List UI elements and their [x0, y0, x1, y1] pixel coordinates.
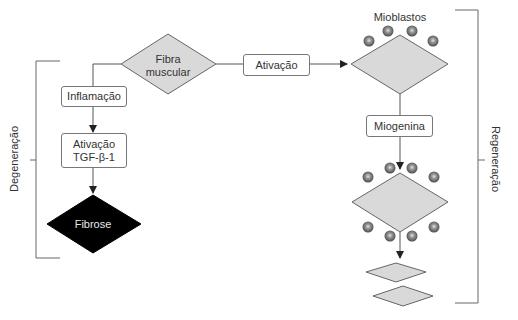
mioblastos-label: Mioblastos — [365, 11, 435, 24]
connector-fibra-inflamacao — [93, 64, 121, 86]
inflamacao-box: Inflamação — [61, 86, 127, 107]
fibra-muscular-label: Fibra muscular — [138, 53, 198, 79]
ativacao-tgf-line2: TGF-β-1 — [73, 151, 115, 164]
fibra-line1: Fibra — [138, 53, 198, 66]
regeneracao-label: Regeneração — [490, 126, 502, 192]
ativacao-tgf-line1: Ativação — [73, 138, 115, 151]
fiber-diamond-2 — [373, 286, 433, 306]
miogenina-label: Miogenina — [374, 120, 425, 133]
degeneracao-label: Degeneração — [8, 126, 20, 192]
inflamacao-label: Inflamação — [67, 90, 121, 103]
ativacao-box: Ativação — [243, 54, 310, 76]
ativacao-label: Ativação — [255, 59, 297, 72]
ativacao-tgf-box: Ativação TGF-β-1 — [61, 133, 127, 168]
fibrose-label: Fibrose — [63, 218, 123, 231]
fibra-line2: muscular — [138, 66, 198, 79]
miogenina-box: Miogenina — [366, 115, 433, 137]
fiber-diamond-1 — [366, 263, 426, 282]
regeneracao-bracket — [455, 10, 485, 303]
